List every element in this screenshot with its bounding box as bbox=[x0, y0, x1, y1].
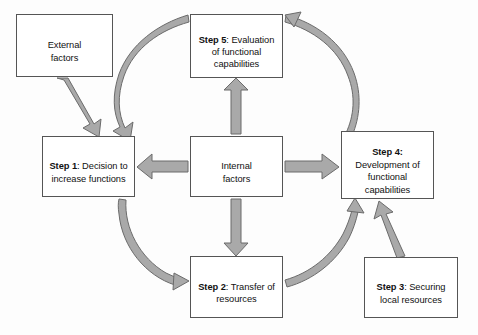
node-step-3-label: Step 3: Securing local resources bbox=[374, 269, 449, 306]
node-step-1-label: Step 1: Decision to increase functions bbox=[46, 148, 130, 185]
arrow-internal-to-step2 bbox=[224, 199, 248, 256]
arrow-internal-to-step5 bbox=[224, 78, 248, 134]
node-step-4-label: Step 4: Development of functional capabi… bbox=[352, 134, 422, 196]
node-step-3[interactable]: Step 3: Securing local resources bbox=[364, 257, 458, 318]
arrow-external-to-step1 bbox=[57, 78, 101, 137]
node-step-4-rest: Development of functional capabilities bbox=[355, 160, 419, 195]
node-step-1-bold: Step 1 bbox=[49, 161, 77, 171]
arrow-step3-to-step4 bbox=[374, 201, 405, 258]
node-external-factors-rest: External factors bbox=[48, 40, 82, 62]
node-internal-factors-label: Internal factors bbox=[218, 148, 255, 185]
node-step-2[interactable]: Step 2: Transfer of resources bbox=[190, 256, 283, 318]
arrow-internal-to-step1 bbox=[137, 154, 188, 179]
arrow-internal-to-step4 bbox=[285, 154, 339, 179]
node-external-factors-label: External factors bbox=[45, 27, 85, 64]
node-external-factors[interactable]: External factors bbox=[16, 14, 113, 77]
node-step-4-bold: Step 4: bbox=[372, 147, 403, 157]
arrow-step1-to-step2 bbox=[118, 199, 189, 290]
arrow-step2-to-step4 bbox=[285, 198, 364, 287]
node-internal-factors[interactable]: Internal factors bbox=[190, 136, 283, 197]
node-internal-factors-rest: Internal factors bbox=[221, 161, 252, 183]
arrow-step4-to-step5 bbox=[285, 12, 359, 136]
node-step-2-rest: : Transfer of resources bbox=[216, 282, 274, 304]
node-step-4[interactable]: Step 4: Development of functional capabi… bbox=[341, 131, 434, 199]
node-step-5-label: Step 5: Evaluation of functional capabil… bbox=[196, 21, 278, 71]
node-step-2-label: Step 2: Transfer of resources bbox=[195, 268, 278, 305]
node-step-5[interactable]: Step 5: Evaluation of functional capabil… bbox=[190, 14, 283, 78]
node-step-1[interactable]: Step 1: Decision to increase functions bbox=[42, 136, 135, 197]
node-step-2-bold: Step 2 bbox=[198, 282, 226, 292]
node-step-3-bold: Step 3 bbox=[377, 282, 405, 292]
arrow-step5-to-step1 bbox=[113, 15, 189, 141]
diagram-canvas: External factors Step 5: Evaluation of f… bbox=[0, 0, 478, 335]
node-step-5-bold: Step 5 bbox=[199, 35, 227, 45]
